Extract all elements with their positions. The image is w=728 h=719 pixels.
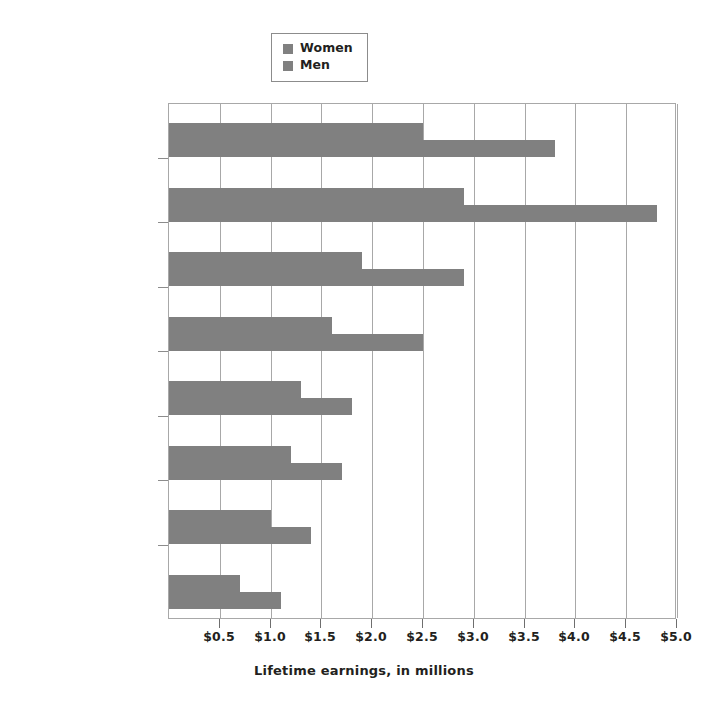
bar-women <box>169 575 240 592</box>
x-axis-tick <box>473 619 474 628</box>
bar-men <box>169 205 657 222</box>
x-axis-title: Lifetime earnings, in millions <box>0 663 728 678</box>
x-axis-tick <box>524 619 525 628</box>
x-axis-tick <box>320 619 321 628</box>
x-axis-tick-label: $5.0 <box>641 631 711 644</box>
bar-women <box>169 252 362 269</box>
x-axis-tick <box>219 619 220 628</box>
legend-label-men: Men <box>300 59 330 72</box>
bar-women <box>169 446 291 463</box>
bar-men <box>169 140 555 157</box>
category-tick <box>158 287 168 288</box>
chart-legend: Women Men <box>271 33 368 82</box>
legend-entry-men: Men <box>283 57 353 74</box>
bar-men <box>169 334 423 351</box>
category-tick <box>158 158 168 159</box>
x-axis-tick <box>676 619 677 628</box>
bar-men <box>169 592 281 609</box>
bar-men <box>169 463 342 480</box>
legend-swatch-men <box>283 61 293 71</box>
category-tick <box>158 545 168 546</box>
bar-women <box>169 188 464 205</box>
category-tick <box>158 480 168 481</box>
bar-men <box>169 527 311 544</box>
x-axis-tick <box>574 619 575 628</box>
plot-area <box>168 103 676 619</box>
legend-swatch-women <box>283 44 293 54</box>
x-axis-tick <box>422 619 423 628</box>
bar-women <box>169 381 301 398</box>
bar-men <box>169 269 464 286</box>
x-axis-tick <box>371 619 372 628</box>
legend-label-women: Women <box>300 42 353 55</box>
gridline-x <box>677 104 678 618</box>
bar-chart: Women Men $0.5$1.0$1.5$2.0$2.5$3.0$3.5$4… <box>0 0 728 719</box>
bars-layer <box>169 104 675 618</box>
bar-women <box>169 510 271 527</box>
category-tick <box>158 351 168 352</box>
bar-men <box>169 398 352 415</box>
category-tick <box>158 222 168 223</box>
x-axis-tick <box>625 619 626 628</box>
category-tick <box>158 416 168 417</box>
bar-women <box>169 123 423 140</box>
x-axis-tick <box>270 619 271 628</box>
legend-entry-women: Women <box>283 40 353 57</box>
bar-women <box>169 317 332 334</box>
